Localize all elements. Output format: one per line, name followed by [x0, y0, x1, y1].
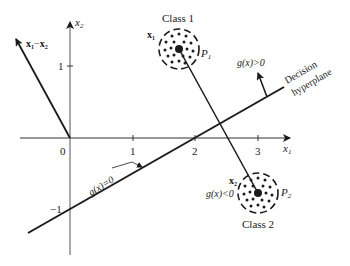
class-1-label: Class 1 [162, 12, 194, 24]
x-axis-label: x1 [282, 142, 291, 156]
x1-point-label: x1 [147, 29, 155, 41]
class-2-label: Class 2 [242, 218, 274, 230]
y-axis: 1 −1 x2 [50, 16, 84, 255]
decision-boundary-diagram: 1 2 3 0 x1 1 −1 x2 x1−x2 Decision hyperp… [0, 0, 350, 266]
class-2-cluster: Class 2 x2 P2 [229, 173, 292, 230]
y-tick-1: 1 [58, 60, 64, 72]
x2-point-label: x2 [229, 175, 237, 187]
negative-region-label: g(x)<0 [206, 188, 234, 200]
x-tick-3: 3 [255, 145, 261, 157]
difference-vector: x1−x2 [16, 38, 70, 138]
x-tick-2: 2 [192, 145, 198, 157]
x-axis: 1 2 3 0 x1 [20, 135, 291, 157]
decision-hyperplane: Decision hyperplane [28, 58, 334, 233]
origin-label: 0 [60, 145, 66, 157]
positive-region-label: g(x)>0 [237, 57, 265, 69]
normal-arrow-icon [258, 73, 267, 97]
p1-label: P1 [200, 47, 211, 61]
class-1-cluster: Class 1 x1 P1 [147, 12, 211, 69]
x-tick-1: 1 [130, 145, 136, 157]
y-axis-label: x2 [74, 16, 84, 30]
p2-label: P2 [280, 186, 292, 200]
difference-vector-label: x1−x2 [26, 38, 48, 50]
y-tick-neg1: −1 [50, 203, 62, 215]
class-connecting-segment [179, 49, 258, 193]
boundary-label: g(x)=0 [86, 162, 142, 199]
